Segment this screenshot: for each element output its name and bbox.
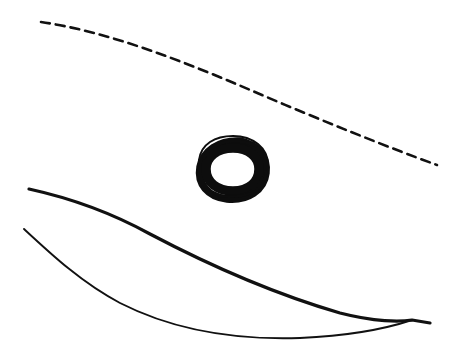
sketch-canvas: A dashed arc across the top, a thick spi…	[0, 0, 455, 357]
canvas-background	[0, 0, 455, 357]
sketch-drawing-surface	[0, 0, 455, 357]
